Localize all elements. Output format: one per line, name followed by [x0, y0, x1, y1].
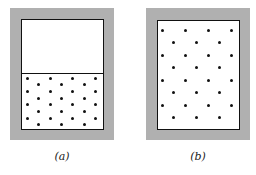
gas-particle — [49, 103, 52, 106]
gas-particle — [26, 103, 29, 106]
gas-particle — [184, 54, 187, 57]
gas-particle — [71, 103, 74, 106]
gas-particle — [37, 83, 40, 86]
gas-particle — [184, 79, 187, 82]
gas-particle — [195, 41, 198, 44]
gas-particle — [26, 77, 29, 80]
container-b — [157, 20, 240, 130]
gas-particle — [83, 110, 86, 113]
gas-particle — [218, 41, 221, 44]
gas-particle — [230, 104, 233, 107]
gas-particle — [172, 66, 175, 69]
gas-particle — [184, 104, 187, 107]
panel-label-b: (b) — [183, 150, 213, 163]
gas-particle — [218, 116, 221, 119]
gas-particle — [60, 110, 63, 113]
partition — [22, 73, 103, 74]
gas-particle — [230, 79, 233, 82]
gas-particle — [49, 90, 52, 93]
gas-particle — [71, 90, 74, 93]
gas-particle — [26, 90, 29, 93]
gas-particle — [195, 91, 198, 94]
gas-particle — [207, 104, 210, 107]
gas-particle — [94, 117, 97, 120]
gas-particle — [195, 66, 198, 69]
gas-particle — [207, 79, 210, 82]
gas-particle — [218, 91, 221, 94]
gas-particle — [207, 29, 210, 32]
gas-particle — [230, 54, 233, 57]
gas-particle — [26, 117, 29, 120]
gas-particle — [83, 97, 86, 100]
gas-particle — [94, 103, 97, 106]
gas-particle — [161, 29, 164, 32]
gas-particle — [37, 110, 40, 113]
gas-particle — [172, 41, 175, 44]
gas-particle — [83, 83, 86, 86]
gas-particle — [218, 66, 221, 69]
gas-particle — [60, 97, 63, 100]
gas-particle — [49, 117, 52, 120]
gas-particle — [161, 104, 164, 107]
panel-label-a: (a) — [47, 150, 77, 163]
gas-particle — [184, 29, 187, 32]
gas-particle — [71, 77, 74, 80]
gas-particle — [195, 116, 198, 119]
gas-particle — [207, 54, 210, 57]
gas-particle — [94, 77, 97, 80]
gas-particle — [161, 79, 164, 82]
gas-particle — [71, 117, 74, 120]
container-a — [21, 19, 104, 130]
gas-particle — [172, 91, 175, 94]
gas-particle — [37, 97, 40, 100]
gas-particle — [49, 77, 52, 80]
gas-particle — [172, 116, 175, 119]
gas-particle — [60, 83, 63, 86]
gas-particle — [94, 90, 97, 93]
gas-particle — [230, 29, 233, 32]
gas-particle — [161, 54, 164, 57]
